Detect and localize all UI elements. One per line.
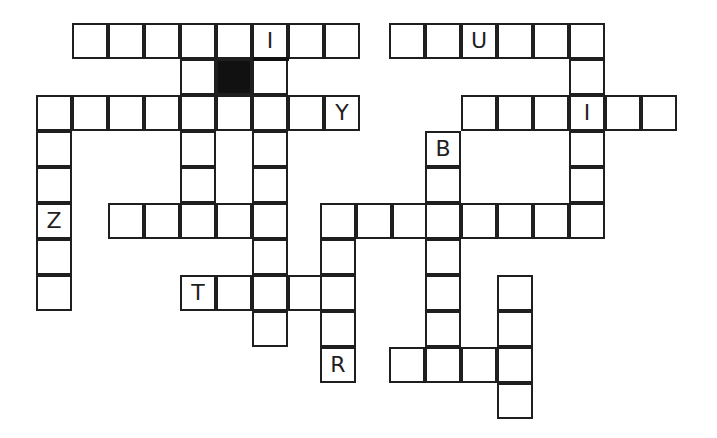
crossword-cell[interactable]	[320, 239, 356, 275]
crossword-cell[interactable]	[108, 203, 144, 239]
crossword-cell[interactable]	[497, 203, 533, 239]
crossword-cell[interactable]	[180, 167, 216, 203]
crossword-cell[interactable]	[144, 203, 180, 239]
crossword-cell[interactable]	[497, 95, 533, 131]
crossword-cell[interactable]	[425, 167, 461, 203]
crossword-cell[interactable]	[36, 131, 72, 167]
crossword-cell[interactable]	[72, 95, 108, 131]
crossword-cell[interactable]	[216, 23, 252, 59]
crossword-cell[interactable]	[36, 275, 72, 311]
crossword-cell[interactable]	[497, 275, 533, 311]
crossword-cell[interactable]	[569, 59, 605, 95]
crossword-cell[interactable]	[180, 95, 216, 131]
crossword-cell[interactable]	[425, 347, 461, 383]
crossword-cell[interactable]	[252, 131, 288, 167]
crossword-cell[interactable]	[324, 23, 360, 59]
crossword-cell[interactable]	[569, 23, 605, 59]
crossword-cell-given[interactable]: B	[425, 131, 461, 167]
crossword-block-cell	[216, 59, 252, 95]
crossword-cell-given[interactable]: Z	[36, 203, 72, 239]
crossword-cell[interactable]	[425, 275, 461, 311]
crossword-cell-given[interactable]: T	[180, 275, 216, 311]
crossword-cell-given[interactable]: R	[320, 347, 356, 383]
crossword-cell[interactable]	[389, 347, 425, 383]
crossword-cell[interactable]	[356, 203, 392, 239]
crossword-cell[interactable]	[252, 311, 288, 347]
crossword-cell-given[interactable]: Y	[324, 95, 360, 131]
crossword-cell[interactable]	[216, 95, 252, 131]
crossword-cell[interactable]	[392, 203, 428, 239]
crossword-cell[interactable]	[252, 275, 288, 311]
crossword-cell[interactable]	[569, 167, 605, 203]
crossword-cell[interactable]	[497, 347, 533, 383]
crossword-cell[interactable]	[108, 95, 144, 131]
crossword-cell[interactable]	[36, 167, 72, 203]
crossword-cell[interactable]	[288, 275, 324, 311]
crossword-cell-given[interactable]: I	[252, 23, 288, 59]
crossword-cell[interactable]	[533, 95, 569, 131]
crossword-cell-given[interactable]: U	[461, 23, 497, 59]
crossword-cell[interactable]	[108, 23, 144, 59]
crossword-cell[interactable]	[180, 59, 216, 95]
crossword-cell[interactable]	[533, 203, 569, 239]
crossword-cell[interactable]	[569, 131, 605, 167]
crossword-cell-given[interactable]: I	[569, 95, 605, 131]
word-separator-bar	[253, 57, 289, 61]
crossword-cell[interactable]	[252, 95, 288, 131]
crossword-cell[interactable]	[425, 311, 461, 347]
crossword-cell[interactable]	[461, 95, 497, 131]
crossword-cell[interactable]	[36, 239, 72, 275]
crossword-cell[interactable]	[216, 203, 252, 239]
crossword-cell[interactable]	[252, 167, 288, 203]
crossword-cell[interactable]	[569, 203, 605, 239]
crossword-cell[interactable]	[425, 203, 461, 239]
crossword-cell[interactable]	[36, 95, 72, 131]
crossword-cell[interactable]	[605, 95, 641, 131]
crossword-cell[interactable]	[144, 23, 180, 59]
crossword-cell[interactable]	[641, 95, 677, 131]
crossword-cell[interactable]	[288, 23, 324, 59]
crossword-cell[interactable]	[144, 95, 180, 131]
crossword-cell[interactable]	[497, 23, 533, 59]
crossword-cell[interactable]	[497, 311, 533, 347]
crossword-cell[interactable]	[425, 239, 461, 275]
crossword-cell[interactable]	[216, 275, 252, 311]
crossword-cell[interactable]	[252, 203, 288, 239]
crossword-cell[interactable]	[461, 347, 497, 383]
crossword-cell[interactable]	[320, 203, 356, 239]
crossword-cell[interactable]	[252, 59, 288, 95]
crossword-cell[interactable]	[180, 131, 216, 167]
crossword-cell[interactable]	[497, 383, 533, 419]
crossword-cell[interactable]	[533, 23, 569, 59]
crossword-cell[interactable]	[389, 23, 425, 59]
crossword-cell[interactable]	[320, 311, 356, 347]
crossword-cell[interactable]	[320, 275, 356, 311]
crossword-cell[interactable]	[72, 23, 108, 59]
crossword-cell[interactable]	[461, 203, 497, 239]
crossword-cell[interactable]	[288, 95, 324, 131]
crossword-grid: IUYIBZTR	[0, 0, 717, 438]
crossword-cell[interactable]	[180, 203, 216, 239]
crossword-cell[interactable]	[425, 23, 461, 59]
crossword-cell[interactable]	[252, 239, 288, 275]
crossword-cell[interactable]	[180, 23, 216, 59]
